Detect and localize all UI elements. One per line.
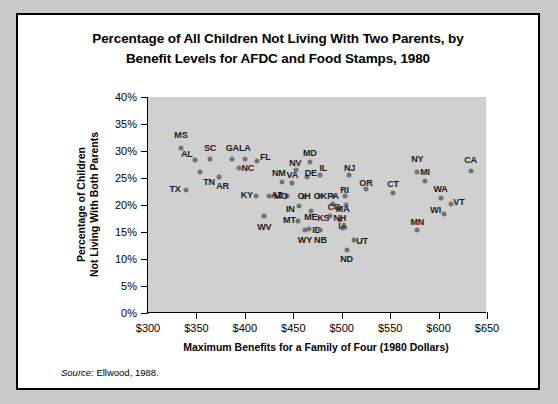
data-point-label-il: IL [319,163,327,173]
data-point-ky [253,194,258,199]
y-axis-tick [141,313,148,314]
data-point-label-nb: NB [314,235,327,245]
x-axis-tick-label: $500 [329,322,353,334]
data-point-label-tx: TX [170,184,181,194]
data-point-label-md: MD [303,148,317,158]
scatter-plot-area: 0%5%10%15%20%25%30%35%40%$300$350$400$45… [147,97,486,313]
y-axis-tick-label: 5% [121,280,137,292]
y-axis-title-line-2: Not Living With Both Parents [88,97,101,312]
y-axis-tick-label: 15% [115,226,137,238]
data-point-label-ks: KS [317,213,329,223]
data-point-nb [318,228,323,233]
data-point-label-la: LA [239,143,251,153]
data-point-label-oh: OH [297,191,310,201]
data-point-label-ky: KY [241,190,253,200]
data-point-wy [302,228,307,233]
data-point-label-ut: UT [356,236,368,246]
data-point-mi [423,178,428,183]
data-point-label-nj: NJ [344,163,355,173]
data-point-ga [230,157,235,162]
data-point-va [290,181,295,186]
x-axis-tick [439,312,440,319]
y-axis-tick [141,205,148,206]
data-point-label-ca: CA [464,155,477,165]
x-axis-tick-label: $350 [184,322,208,334]
chart-title-line-1: Percentage of All Children Not Living Wi… [18,29,538,49]
y-axis-title-line-1: Percentage of Children [75,97,88,312]
data-point-il [318,172,323,177]
data-point-label-ok: OK [314,191,327,201]
data-point-label-me: ME [304,212,317,222]
data-point-label-or: OR [359,178,372,188]
x-axis-tick-label: $450 [281,322,305,334]
data-point-nm [279,180,284,185]
data-point-in [297,203,302,208]
y-axis-tick [141,259,148,260]
data-point-wi [442,211,447,216]
y-axis-tick [141,97,148,98]
figure-frame: Percentage of All Children Not Living Wi… [16,13,540,390]
data-point-ca [468,168,473,173]
data-point-wa [438,195,443,200]
y-axis-tick-label: 20% [115,199,137,211]
data-point-label-fl: FL [260,152,271,162]
data-point-label-vt: VT [453,197,464,207]
y-axis-tick [141,124,148,125]
x-axis-tick-label: $400 [233,322,257,334]
data-point-sc [207,157,212,162]
y-axis-tick [141,232,148,233]
data-point-label-wv: WV [257,222,271,232]
data-point-label-ny: NY [411,154,423,164]
y-axis-tick-label: 30% [115,145,137,157]
data-point-label-wy: WY [298,235,312,245]
y-axis-tick-label: 25% [115,172,137,184]
data-point-ct [391,190,396,195]
x-axis-tick [342,312,343,319]
data-point-ar [216,175,221,180]
data-point-label-ga: GA [226,143,239,153]
data-point-label-ia: IA [338,221,347,231]
data-point-la [242,157,247,162]
y-axis-tick [141,151,148,152]
source-label: Source: [61,367,94,378]
data-point-label-nc: NC [241,163,254,173]
chart-title-line-2: Benefit Levels for AFDC and Food Stamps,… [18,49,538,69]
data-point-label-nd: ND [340,254,353,264]
data-point-wv [262,214,267,219]
data-point-label-in: IN [286,204,295,214]
data-point-label-pa: PA [327,191,338,201]
data-point-label-nv: NV [289,158,301,168]
x-axis-tick-label: $650 [475,322,499,334]
x-axis-tick-label: $300 [136,322,160,334]
data-point-nv [294,168,299,173]
data-point-mt [296,218,301,223]
x-axis-tick-label: $550 [378,322,402,334]
y-axis-tick-label: 0% [121,307,137,319]
x-axis-tick [487,312,488,319]
data-point-tx [183,187,188,192]
data-point-nj [347,173,352,178]
data-point-nd [344,248,349,253]
data-point-tn [198,169,203,174]
data-point-label-ms: MS [174,130,187,140]
data-point-label-mo: MO [274,191,288,201]
x-axis-tick [293,312,294,319]
data-point-label-sc: SC [204,143,216,153]
data-point-label-wa: WA [433,184,447,194]
data-point-label-mn: MN [410,217,424,227]
data-point-md [307,159,312,164]
y-axis-title: Percentage of Children Not Living With B… [75,97,101,312]
x-axis-tick [390,312,391,319]
data-point-label-mt: MT [283,215,296,225]
data-point-label-ri: RI [340,185,349,195]
data-point-label-ar: AR [216,181,229,191]
source-value: Ellwood, 1988. [94,367,159,378]
data-point-mn [415,227,420,232]
y-axis-tick-label: 35% [115,118,137,130]
chart-title: Percentage of All Children Not Living Wi… [18,29,538,68]
x-axis-tick [245,312,246,319]
data-point-label-ct: CT [387,179,399,189]
x-axis-tick-label: $600 [426,322,450,334]
data-point-label-tn: TN [203,177,215,187]
y-axis-tick-label: 10% [115,253,137,265]
